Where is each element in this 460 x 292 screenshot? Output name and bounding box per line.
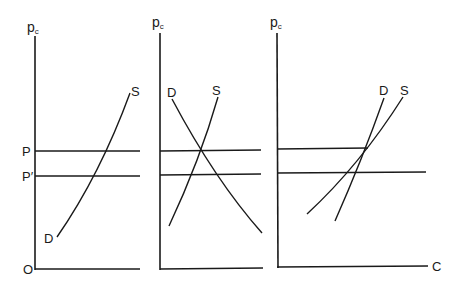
- curve-label-s: S: [212, 83, 221, 98]
- y-axis: [277, 33, 278, 268]
- curve-s: [169, 97, 218, 226]
- curve-s: [307, 97, 403, 214]
- curve-label-s: S: [131, 84, 140, 99]
- x-axis: [277, 266, 428, 267]
- curve-d: [335, 98, 384, 221]
- curve-d: [172, 99, 262, 233]
- y-axis-label: pc: [27, 19, 39, 36]
- price-line-p-prime: [160, 174, 261, 175]
- panel-middle: pc D S: [152, 14, 263, 270]
- price-line-p: [277, 148, 368, 149]
- panel-right: pc C D S: [270, 14, 441, 274]
- panel-left: pc O P P′ S D: [22, 19, 140, 277]
- supply-demand-diagram: pc O P P′ S D pc D S pc C D S: [0, 0, 460, 292]
- curve-label-d: D: [379, 83, 388, 98]
- curve-label-s: S: [400, 83, 409, 98]
- x-axis-label: C: [432, 259, 441, 274]
- price-label-p: P: [22, 144, 31, 159]
- y-axis-label: pc: [152, 14, 164, 31]
- curve-label-d: D: [44, 231, 53, 246]
- curve-s: [57, 93, 130, 237]
- curve-label-d: D: [167, 85, 176, 100]
- price-line-p: [160, 150, 261, 151]
- y-axis-label: pc: [270, 14, 282, 31]
- price-label-p-prime: P′: [22, 169, 34, 184]
- price-line-p-prime: [277, 172, 426, 173]
- x-axis: [160, 268, 263, 269]
- origin-label: O: [23, 262, 33, 277]
